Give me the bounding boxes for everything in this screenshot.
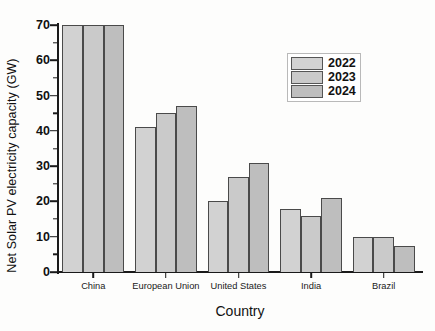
bar[interactable] <box>301 216 322 272</box>
bar[interactable] <box>280 209 301 273</box>
y-axis-title: Net Solar PV electricity capacity (GW) <box>0 0 24 331</box>
bar-chart: Net Solar PV electricity capacity (GW) C… <box>0 0 435 331</box>
y-axis-tick-label: 60 <box>36 53 57 67</box>
y-axis-minor-tick <box>53 77 57 78</box>
y-axis-minor-tick <box>53 113 57 114</box>
x-axis-category-label: India <box>301 281 321 291</box>
bar[interactable] <box>104 25 125 272</box>
legend-label: 2022 <box>328 57 356 70</box>
bar[interactable] <box>353 237 374 272</box>
x-axis-category-label: European Union <box>132 281 199 291</box>
bar[interactable] <box>156 113 177 272</box>
x-axis-tick-mark <box>165 272 167 278</box>
plot-area: 010203040506070ChinaEuropean UnionUnited… <box>57 25 420 272</box>
y-axis-tick-label: 50 <box>36 89 57 103</box>
bar[interactable] <box>321 198 342 272</box>
y-axis-tick-label: 30 <box>36 159 57 173</box>
x-axis-category-label: Brazil <box>372 281 395 291</box>
bar[interactable] <box>208 201 229 272</box>
x-axis-tick-mark <box>238 272 240 278</box>
bar[interactable] <box>228 177 249 272</box>
bar[interactable] <box>176 106 197 272</box>
x-axis-tick-mark <box>93 272 95 278</box>
legend-item[interactable]: 2024 <box>291 85 356 98</box>
bar[interactable] <box>373 237 394 272</box>
x-axis-title: Country <box>55 303 425 319</box>
legend: 202220232024 <box>287 53 361 102</box>
legend-item[interactable]: 2023 <box>291 71 356 84</box>
y-axis-minor-tick <box>53 42 57 43</box>
y-axis-minor-tick <box>53 218 57 219</box>
legend-label: 2023 <box>328 71 356 84</box>
y-axis-tick-label: 20 <box>36 194 57 208</box>
y-axis-minor-tick <box>53 148 57 149</box>
y-axis-tick-label: 40 <box>36 124 57 138</box>
x-axis-tick-mark <box>383 272 385 278</box>
y-axis-tick-label: 70 <box>36 18 57 32</box>
bar-group: Brazil <box>353 25 415 272</box>
bar[interactable] <box>249 163 270 272</box>
legend-item[interactable]: 2022 <box>291 57 356 70</box>
x-axis-category-label: United States <box>211 281 267 291</box>
legend-swatch <box>291 85 323 98</box>
bar[interactable] <box>135 127 156 272</box>
x-axis-tick-mark <box>310 272 312 278</box>
y-axis-minor-tick <box>53 254 57 255</box>
x-axis-category-label: China <box>81 281 105 291</box>
bar-group: China <box>62 25 124 272</box>
bar[interactable] <box>62 25 83 272</box>
y-axis-tick-label: 10 <box>36 230 57 244</box>
y-axis-minor-tick <box>53 183 57 184</box>
legend-label: 2024 <box>328 85 356 98</box>
legend-swatch <box>291 71 323 84</box>
bar-group: European Union <box>135 25 197 272</box>
bar-group: United States <box>208 25 270 272</box>
legend-swatch <box>291 57 323 70</box>
bar[interactable] <box>394 246 415 272</box>
bar[interactable] <box>83 25 104 272</box>
y-axis-tick-label: 0 <box>43 265 57 279</box>
